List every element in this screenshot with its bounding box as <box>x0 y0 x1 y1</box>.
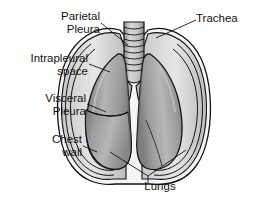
anatomy-figure: Parietal Pleura Intrapleural space Visce… <box>0 0 258 209</box>
label-visceral-pleura: Visceral Pleura <box>14 92 86 117</box>
label-trachea: Trachea <box>196 12 254 25</box>
label-chest-wall: Chest wall <box>18 133 82 158</box>
label-parietal-pleura: Parietal Pleura <box>38 10 100 35</box>
label-intrapleural-space: Intrapleural space <box>6 52 88 77</box>
label-lungs: Lungs <box>136 180 184 193</box>
